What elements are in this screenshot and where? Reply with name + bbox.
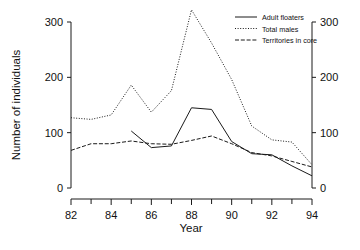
y-tick-label: 200: [45, 71, 63, 83]
y-tick-label: 100: [45, 127, 63, 139]
y-tick-label-right: 300: [320, 16, 338, 28]
y-axis-left-tick-labels: 0100200300: [45, 16, 63, 194]
y-tick-label-right: 100: [320, 127, 338, 139]
x-tick-label: 92: [266, 209, 278, 221]
legend-label: Adult floaters: [262, 13, 304, 22]
y-tick-label-right: 0: [320, 182, 326, 194]
chart-legend: Adult floatersTotal malesTerritories in …: [235, 13, 317, 45]
chart-figure: 0100200300 0100200300 82848688909294 Num…: [0, 0, 360, 250]
series-line-adult-floaters: [131, 108, 312, 176]
x-tick-label: 82: [65, 209, 77, 221]
legend-label: Territories in core: [262, 36, 317, 45]
y-axis-right-tick-labels: 0100200300: [320, 16, 338, 194]
line-chart-canvas: 0100200300 0100200300 82848688909294 Num…: [0, 0, 360, 250]
x-tick-label: 94: [306, 209, 318, 221]
x-axis-ticks: [71, 199, 312, 205]
x-tick-label: 86: [145, 209, 157, 221]
x-tick-label: 84: [105, 209, 117, 221]
data-series-group: [71, 10, 312, 176]
y-axis-title: Number of individuals: [10, 49, 22, 160]
y-tick-label: 300: [45, 16, 63, 28]
y-axis-left-ticks: [67, 22, 71, 188]
y-tick-label: 0: [57, 182, 63, 194]
x-tick-label: 90: [226, 209, 238, 221]
y-axis-right-ticks: [312, 22, 316, 188]
legend-label: Total males: [262, 25, 299, 34]
x-tick-label: 88: [185, 209, 197, 221]
y-tick-label-right: 200: [320, 71, 338, 83]
x-axis-tick-labels: 82848688909294: [65, 209, 318, 221]
x-axis-title: Year: [179, 222, 202, 234]
